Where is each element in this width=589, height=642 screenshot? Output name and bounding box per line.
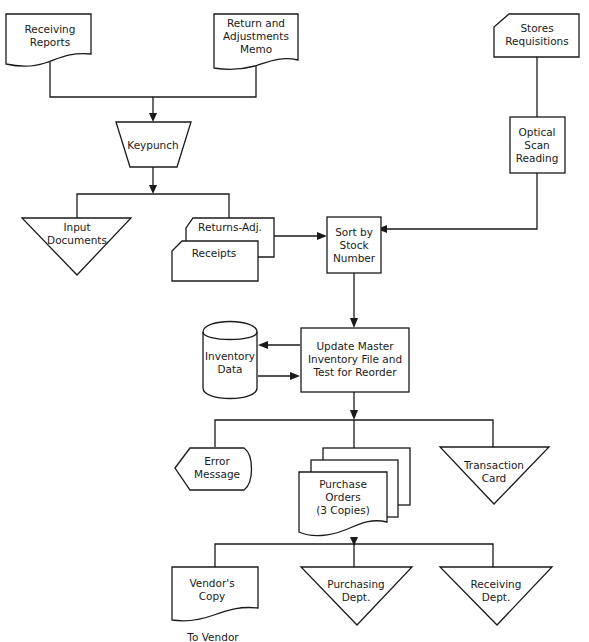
svg-text:Memo: Memo — [240, 43, 272, 55]
svg-text:(3 Copies): (3 Copies) — [316, 504, 369, 516]
svg-text:Keypunch: Keypunch — [127, 139, 178, 151]
node-optical-scan: Optical Scan Reading — [510, 117, 565, 173]
node-error-message: Error Message — [175, 448, 252, 490]
svg-text:Returns-Adj.: Returns-Adj. — [198, 221, 262, 233]
svg-text:Copy: Copy — [199, 590, 226, 602]
node-receiving-dept: Receiving Dept. — [440, 567, 552, 625]
svg-text:Stores: Stores — [520, 22, 553, 34]
arrowhead — [350, 318, 358, 328]
connector-scan-to-sort — [386, 173, 537, 229]
node-inventory-data: Inventory Data — [203, 322, 257, 399]
arrowhead — [317, 232, 327, 240]
svg-text:Input: Input — [63, 221, 90, 233]
svg-text:Message: Message — [194, 468, 240, 480]
svg-text:Error: Error — [204, 455, 230, 467]
svg-text:Purchase: Purchase — [319, 478, 367, 490]
svg-text:Purchasing: Purchasing — [327, 578, 384, 590]
node-return-memo: Return and Adjustments Memo — [214, 14, 298, 69]
node-vendors-copy: Vendor's Copy — [172, 567, 258, 621]
svg-text:Receiving: Receiving — [471, 578, 522, 590]
node-receiving-reports: Receiving Reports — [6, 14, 91, 66]
svg-text:Return and: Return and — [227, 17, 285, 29]
svg-text:Adjustments: Adjustments — [223, 30, 289, 42]
svg-text:Receiving: Receiving — [25, 23, 76, 35]
inventory-flowchart: Receiving Reports Return and Adjustments… — [0, 0, 589, 642]
arrowhead — [290, 372, 300, 380]
svg-text:Number: Number — [333, 252, 376, 264]
node-stores-requisitions: Stores Requisitions — [494, 14, 579, 57]
svg-text:Stock: Stock — [339, 239, 369, 251]
arrowhead — [258, 341, 268, 349]
node-receipts: Receipts — [172, 241, 258, 281]
svg-text:Inventory File and: Inventory File and — [308, 353, 402, 365]
svg-text:Transaction: Transaction — [463, 459, 524, 471]
svg-text:Sort by: Sort by — [335, 226, 373, 238]
svg-text:Inventory: Inventory — [205, 350, 255, 362]
svg-text:Optical: Optical — [518, 126, 555, 138]
svg-text:Documents: Documents — [47, 234, 107, 246]
svg-text:Receipts: Receipts — [192, 247, 237, 259]
svg-text:Scan: Scan — [524, 139, 550, 151]
svg-text:Dept.: Dept. — [482, 591, 511, 603]
arrowhead — [350, 410, 358, 420]
node-purchasing-dept: Purchasing Dept. — [301, 567, 412, 625]
svg-text:Orders: Orders — [325, 491, 360, 503]
node-input-documents: Input Documents — [22, 218, 131, 275]
arrowhead — [149, 113, 157, 122]
caption-to-vendor: To Vendor — [186, 631, 239, 642]
connector-keypunch-split — [77, 194, 229, 218]
node-purchase-orders: Purchase Orders (3 Copies) — [299, 448, 410, 536]
svg-text:Dept.: Dept. — [342, 591, 371, 603]
svg-text:Card: Card — [482, 472, 507, 484]
node-update-master: Update Master Inventory File and Test fo… — [301, 328, 409, 392]
node-sort-stock: Sort by Stock Number — [327, 217, 381, 273]
svg-text:Requisitions: Requisitions — [505, 35, 569, 47]
svg-text:Vendor's: Vendor's — [189, 577, 234, 589]
node-keypunch: Keypunch — [116, 122, 191, 167]
svg-text:Data: Data — [217, 363, 242, 375]
svg-text:Reports: Reports — [30, 36, 70, 48]
node-transaction-card: Transaction Card — [440, 447, 549, 504]
svg-text:Update Master: Update Master — [316, 340, 394, 352]
arrowhead — [149, 185, 157, 194]
svg-text:Reading: Reading — [516, 152, 559, 164]
svg-text:Test for Reorder: Test for Reorder — [312, 366, 397, 378]
